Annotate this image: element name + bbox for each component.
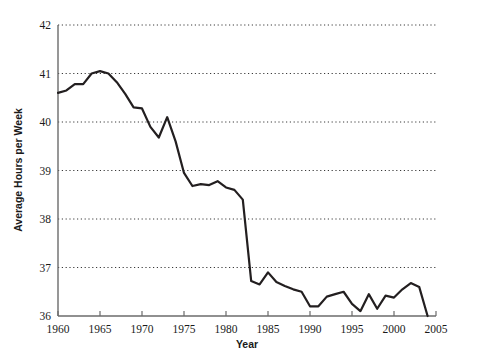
x-axis-ticks: [58, 311, 436, 316]
x-tick-label: 1970: [131, 323, 154, 335]
line-chart: 36373839404142 1960196519701975198019851…: [0, 0, 481, 362]
y-tick-label: 39: [40, 165, 52, 177]
y-tick-label: 37: [40, 262, 52, 274]
y-tick-label: 38: [40, 213, 52, 225]
y-tick-label: 42: [40, 19, 52, 31]
chart-canvas: 36373839404142 1960196519701975198019851…: [0, 0, 481, 362]
y-tick-label: 41: [40, 68, 52, 80]
y-tick-label: 36: [40, 310, 52, 322]
x-tick-label: 1965: [89, 323, 112, 335]
x-tick-label: 1975: [173, 323, 196, 335]
y-axis-title: Average Hours per Week: [12, 108, 24, 232]
x-tick-label: 1990: [299, 323, 322, 335]
x-tick-label: 1985: [257, 323, 280, 335]
data-series-line: [58, 71, 428, 316]
x-axis-title: Year: [236, 338, 258, 350]
x-tick-label: 1995: [341, 323, 364, 335]
y-axis-tick-labels: 36373839404142: [40, 19, 52, 322]
x-tick-label: 1960: [47, 323, 70, 335]
x-tick-label: 2005: [425, 323, 448, 335]
x-tick-label: 1980: [215, 323, 238, 335]
x-tick-label: 2000: [383, 323, 406, 335]
y-tick-label: 40: [40, 116, 52, 128]
x-axis-tick-labels: 1960196519701975198019851990199520002005: [47, 323, 448, 335]
